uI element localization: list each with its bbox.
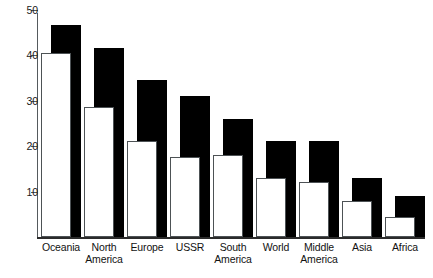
bar-group [299, 8, 339, 237]
bar-front [127, 141, 157, 237]
y-tick-label: 10 [10, 187, 38, 197]
bar-group [385, 8, 425, 237]
category-label-line: America [291, 254, 347, 266]
bar-front [256, 178, 286, 237]
y-tick-label: 50 [10, 5, 38, 15]
plot-area [38, 8, 425, 237]
y-tick-label: 30 [10, 96, 38, 106]
category-label-line: America [205, 254, 261, 266]
x-axis-baseline [37, 237, 425, 239]
bar-front [213, 155, 243, 237]
bar-group [170, 8, 210, 237]
bar-front [41, 53, 71, 237]
bar-group [342, 8, 382, 237]
bar-front [342, 201, 372, 237]
bar-front [170, 157, 200, 237]
bar-front [299, 182, 329, 237]
bar-chart: 1020304050 OceaniaNorthAmericaEuropeUSSR… [0, 0, 433, 278]
bar-group [127, 8, 167, 237]
bar-group [41, 8, 81, 237]
category-label: Africa [377, 242, 433, 254]
category-label-line: America [76, 254, 132, 266]
bar-group [84, 8, 124, 237]
bar-group [213, 8, 253, 237]
bar-group [256, 8, 296, 237]
bar-front [84, 107, 114, 237]
category-label-line: Africa [377, 242, 433, 254]
y-tick-label: 20 [10, 141, 38, 151]
y-tick-label: 40 [10, 50, 38, 60]
bar-front [385, 217, 415, 237]
